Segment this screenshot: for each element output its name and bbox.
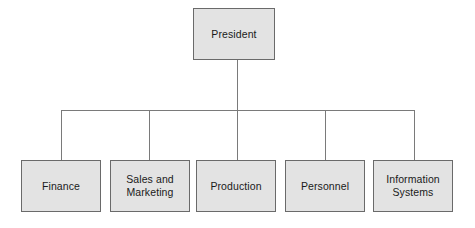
org-node-label-information-systems: Information Systems [383,173,443,199]
connector-drop-production [237,110,238,160]
org-chart: President Finance Sales and Marketing Pr… [0,0,475,228]
connector-president-stem [237,60,238,110]
org-node-information-systems[interactable]: Information Systems [373,160,453,212]
org-node-label-finance: Finance [39,180,83,193]
org-node-label-personnel: Personnel [298,180,352,193]
org-node-label-production: Production [207,180,264,193]
org-node-label-sales-and-marketing: Sales and Marketing [123,173,177,199]
connector-horizontal-bus [61,110,415,111]
connector-drop-information-systems [414,110,415,160]
org-node-personnel[interactable]: Personnel [285,160,365,212]
connector-drop-finance [61,110,62,160]
connector-drop-personnel [325,110,326,160]
org-node-president[interactable]: President [193,8,275,60]
org-node-production[interactable]: Production [196,160,276,212]
org-node-label-president: President [208,28,259,41]
connector-drop-sales-and-marketing [149,110,150,160]
org-node-finance[interactable]: Finance [21,160,101,212]
org-node-sales-and-marketing[interactable]: Sales and Marketing [110,160,190,212]
